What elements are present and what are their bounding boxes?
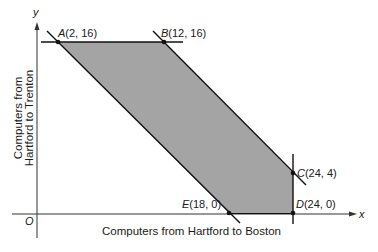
point-B-label: B(12, 16) [161, 27, 206, 39]
x-axis-arrow-icon [349, 212, 357, 217]
point-D-marker [291, 211, 296, 216]
point-E-label: E(18, 0) [182, 198, 221, 210]
point-E-marker [227, 211, 232, 216]
y-axis-arrow-icon [35, 22, 40, 30]
y-axis-title-line2: Hartford to Trenton [23, 70, 35, 167]
x-axis-symbol: x [358, 208, 365, 220]
x-axis-title: Computers from Hartford to Boston [102, 225, 281, 237]
point-A-marker [56, 40, 61, 45]
feasible-region [58, 42, 293, 213]
point-C-marker [291, 171, 296, 176]
point-C-label: C(24, 4) [297, 167, 337, 179]
point-D-label: D(24, 0) [296, 198, 336, 210]
y-axis-symbol: y [32, 6, 40, 18]
diagram-canvas: x y O A(2, 16) B(12, 16) C(24, 4) D(24, … [0, 0, 378, 252]
point-B-marker [162, 40, 167, 45]
point-A-label: A(2, 16) [57, 27, 97, 39]
origin-label: O [25, 215, 34, 227]
